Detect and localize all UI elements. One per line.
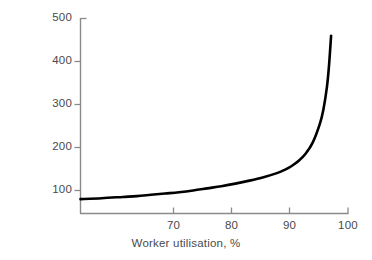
x-tick-label-80: 80 — [217, 220, 246, 232]
chart-container: 500 400 300 200 100 70 80 90 100 Worker … — [0, 0, 372, 260]
y-tick-label-500: 500 — [44, 12, 72, 24]
wip-curve-line — [81, 36, 332, 199]
y-tick-label-400: 400 — [44, 55, 72, 67]
x-tick-label-70: 70 — [159, 220, 188, 232]
x-axis — [80, 208, 349, 214]
x-tick-label-90: 90 — [275, 220, 304, 232]
y-tick-label-200: 200 — [44, 141, 72, 153]
y-tick-label-100: 100 — [44, 184, 72, 196]
y-axis — [75, 18, 87, 214]
y-tick-label-300: 300 — [44, 98, 72, 110]
x-tick-label-100: 100 — [332, 220, 364, 232]
x-axis-title: Worker utilisation, % — [0, 238, 372, 250]
